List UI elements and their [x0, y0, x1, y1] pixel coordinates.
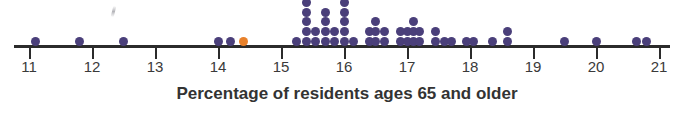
data-dot: [31, 37, 40, 46]
data-dot: [349, 37, 358, 46]
data-dot: [302, 37, 311, 46]
data-dot: [340, 17, 349, 26]
dot-plot-figure: 1112131415161718192021 Percentage of res…: [0, 0, 694, 114]
data-dot: [642, 37, 651, 46]
data-dot: [302, 27, 311, 36]
data-dot: [469, 37, 478, 46]
data-dot: [292, 37, 301, 46]
data-dot: [371, 17, 380, 26]
data-dot: [503, 37, 512, 46]
x-tick-label-20: 20: [576, 58, 616, 75]
x-tick-label-13: 13: [135, 58, 175, 75]
data-dot: [330, 27, 339, 36]
data-dot: [632, 37, 641, 46]
x-tick-label-11: 11: [9, 58, 49, 75]
x-tick-label-15: 15: [261, 58, 301, 75]
scan-artifact: [111, 6, 117, 17]
data-dot: [431, 27, 440, 36]
x-tick-label-14: 14: [198, 58, 238, 75]
data-dot: [321, 37, 330, 46]
data-dot: [214, 37, 223, 46]
data-dot: [340, 8, 349, 17]
data-dot: [302, 17, 311, 26]
axis-caption: Percentage of residents ages 65 and olde…: [0, 84, 694, 104]
data-dot: [447, 37, 456, 46]
data-dot: [340, 27, 349, 36]
data-dot: [119, 37, 128, 46]
plot-area: 1112131415161718192021: [0, 0, 694, 80]
data-dot: [488, 37, 497, 46]
data-dot: [560, 37, 569, 46]
x-tick-label-19: 19: [513, 58, 553, 75]
data-dot: [321, 27, 330, 36]
data-dot: [311, 27, 320, 36]
data-dot: [321, 8, 330, 17]
data-dot: [75, 37, 84, 46]
data-dot: [330, 37, 339, 46]
data-dot: [371, 37, 380, 46]
data-dot: [340, 0, 349, 7]
data-dot: [415, 37, 424, 46]
data-dot: [311, 37, 320, 46]
data-dot: [592, 37, 601, 46]
data-dot: [302, 0, 311, 7]
data-dot: [409, 17, 418, 26]
data-dot: [380, 27, 389, 36]
data-dot: [503, 27, 512, 36]
x-tick-label-17: 17: [387, 58, 427, 75]
data-dot: [321, 17, 330, 26]
data-dot: [340, 37, 349, 46]
x-tick-label-12: 12: [72, 58, 112, 75]
data-dot: [302, 8, 311, 17]
data-dot: [226, 37, 235, 46]
data-dot-highlighted: [239, 37, 248, 46]
data-dot: [415, 27, 424, 36]
x-tick-label-16: 16: [324, 58, 364, 75]
data-dot: [371, 27, 380, 36]
data-dot: [431, 37, 440, 46]
data-dot: [380, 37, 389, 46]
x-tick-label-18: 18: [450, 58, 490, 75]
x-tick-label-21: 21: [639, 58, 679, 75]
